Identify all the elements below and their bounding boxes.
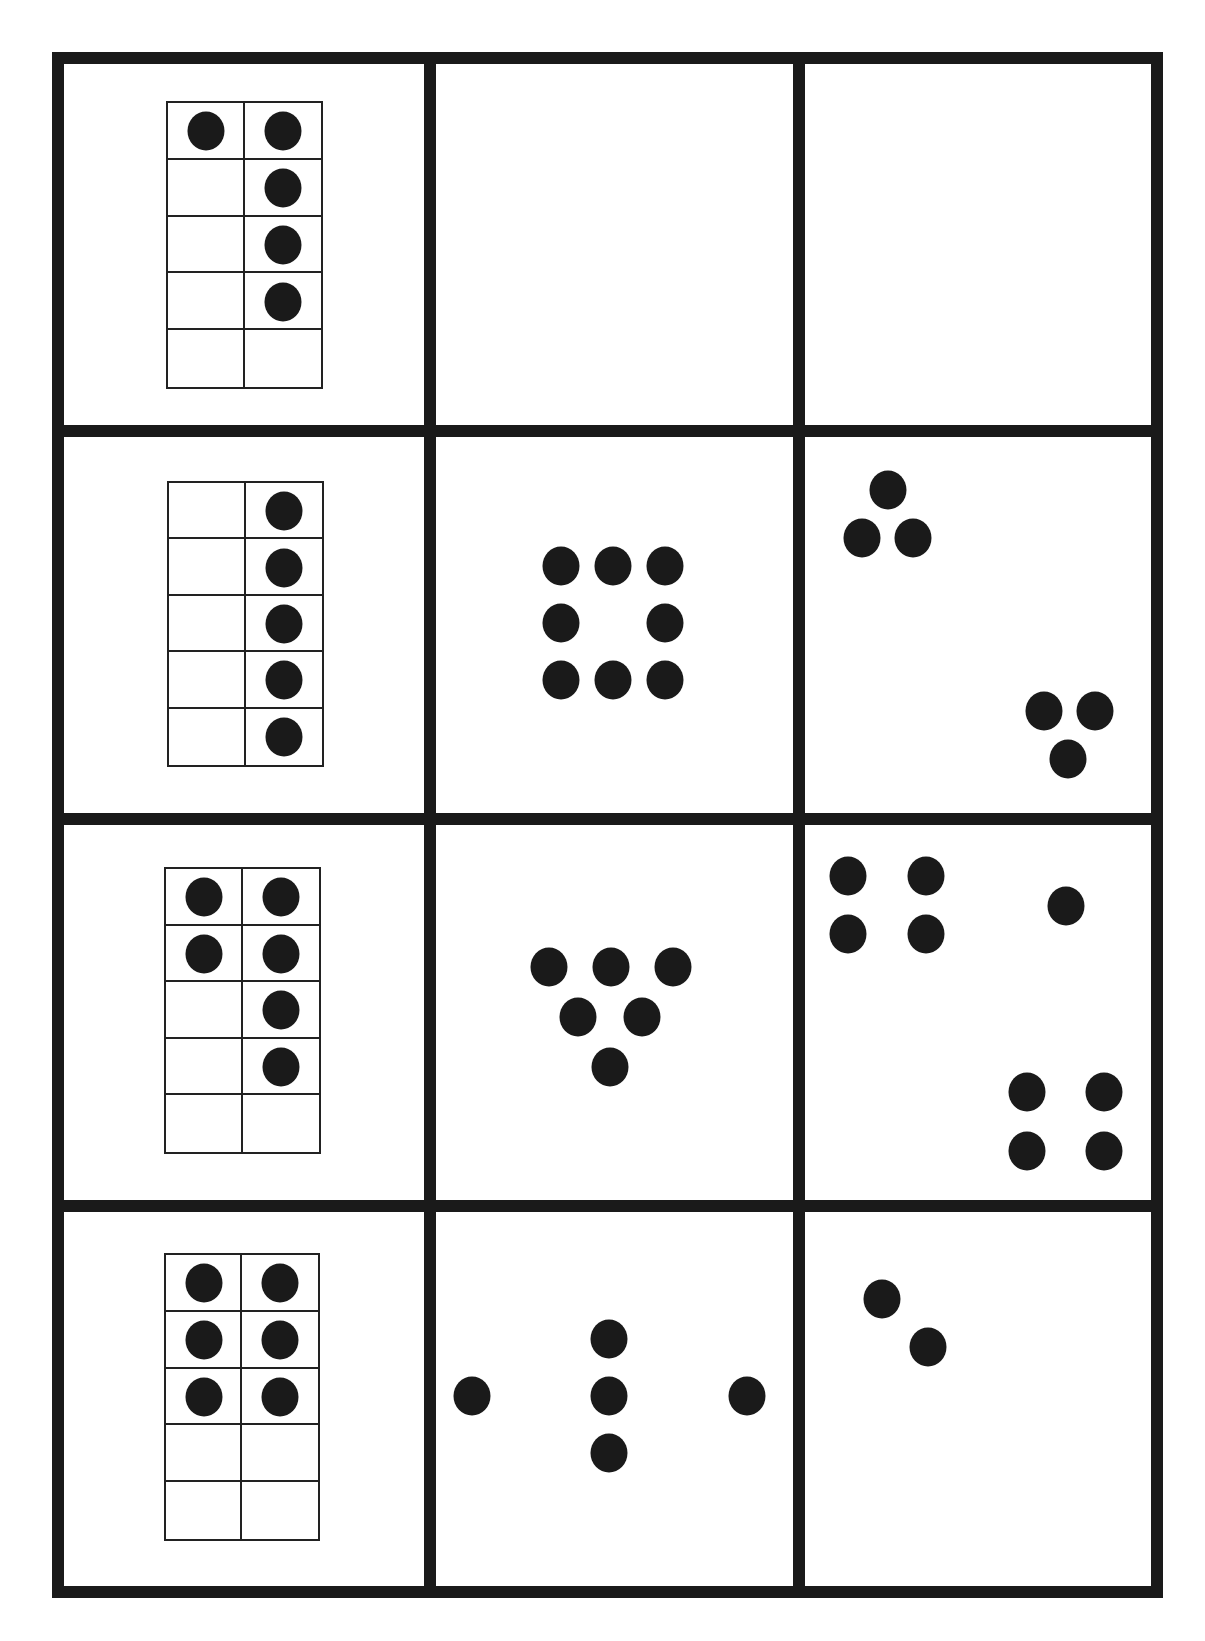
counter-dot — [186, 878, 223, 917]
counter-dot — [265, 548, 302, 587]
dot-card-dot — [1077, 692, 1114, 731]
ten-frame-cell — [168, 273, 245, 330]
counter-dot — [264, 282, 301, 321]
ten-frame-cell — [169, 652, 246, 708]
counter-dot — [262, 878, 299, 917]
ten-frame-cell — [245, 273, 322, 330]
ten-frame-cell — [166, 982, 243, 1039]
row-divider — [52, 813, 1163, 825]
ten-frame-cell — [246, 596, 323, 652]
dot-card-dot — [1086, 1132, 1123, 1171]
ten-frame-cell — [242, 1312, 318, 1369]
ten-frame-cell — [243, 1039, 320, 1096]
dot-card-dot — [591, 1377, 628, 1416]
ten-frame-cell — [169, 709, 246, 765]
ten-frame-cell — [166, 1039, 243, 1096]
dot-card-dot — [543, 547, 580, 586]
dot-card-dot — [908, 857, 945, 896]
row-divider — [52, 1200, 1163, 1212]
counter-dot — [262, 991, 299, 1030]
dot-card-dot — [864, 1280, 901, 1319]
dot-card-dot — [647, 661, 684, 700]
column-divider — [424, 52, 436, 1598]
ten-frame — [167, 481, 324, 767]
dot-card-dot — [910, 1328, 947, 1367]
dot-card-dot — [647, 547, 684, 586]
dot-card-dot — [655, 948, 692, 987]
counter-dot — [262, 1264, 299, 1303]
ten-frame-cell — [243, 926, 320, 983]
counter-dot — [264, 112, 301, 151]
dot-card-dot — [531, 948, 568, 987]
ten-frame-cell — [169, 596, 246, 652]
ten-frame-cell — [245, 217, 322, 274]
column-divider — [793, 52, 805, 1598]
ten-frame-cell — [243, 1095, 320, 1152]
ten-frame-cell — [166, 1255, 242, 1312]
ten-frame-cell — [242, 1425, 318, 1482]
ten-frame-cell — [246, 483, 323, 539]
ten-frame-cell — [245, 330, 322, 387]
counter-dot — [265, 492, 302, 531]
dot-card-dot — [895, 519, 932, 558]
ten-frame-cell — [166, 1482, 242, 1539]
dot-card-dot — [595, 661, 632, 700]
dot-card-dot — [1048, 887, 1085, 926]
row-divider — [52, 425, 1163, 437]
ten-frame-cell — [168, 217, 245, 274]
dot-card-dot — [454, 1377, 491, 1416]
counter-dot — [265, 661, 302, 700]
dot-card-dot — [1026, 692, 1063, 731]
dot-card-dot — [844, 519, 881, 558]
ten-frame-cell — [246, 652, 323, 708]
ten-frame-cell — [169, 483, 246, 539]
grid-border-right — [1151, 52, 1163, 1598]
ten-frame-cell — [169, 539, 246, 595]
grid-border-left — [52, 52, 64, 1598]
ten-frame — [164, 867, 321, 1154]
ten-frame-cell — [166, 1369, 242, 1426]
counter-dot — [262, 1377, 299, 1416]
grid-border-bottom — [52, 1586, 1163, 1598]
counter-dot — [262, 1321, 299, 1360]
counter-dot — [262, 934, 299, 973]
dot-card-dot — [593, 948, 630, 987]
counter-dot — [186, 1377, 223, 1416]
ten-frame-cell — [246, 709, 323, 765]
ten-frame-cell — [246, 539, 323, 595]
ten-frame-cell — [245, 160, 322, 217]
ten-frame-cell — [166, 926, 243, 983]
dot-card-dot — [830, 857, 867, 896]
dot-card-dot — [870, 471, 907, 510]
dot-card-dot — [830, 915, 867, 954]
ten-frame-cell — [166, 1095, 243, 1152]
dot-card-dot — [560, 998, 597, 1037]
worksheet-grid — [0, 0, 1205, 1641]
ten-frame-cell — [245, 103, 322, 160]
dot-card-dot — [591, 1320, 628, 1359]
dot-card-dot — [591, 1434, 628, 1473]
ten-frame-cell — [166, 1312, 242, 1369]
dot-card-dot — [908, 915, 945, 954]
grid-border-top — [52, 52, 1163, 64]
dot-card-dot — [592, 1048, 629, 1087]
ten-frame-cell — [243, 869, 320, 926]
ten-frame-cell — [242, 1482, 318, 1539]
dot-card-dot — [543, 604, 580, 643]
ten-frame-cell — [166, 869, 243, 926]
ten-frame-cell — [243, 982, 320, 1039]
counter-dot — [264, 169, 301, 208]
counter-dot — [265, 717, 302, 756]
dot-card-dot — [729, 1377, 766, 1416]
counter-dot — [186, 1264, 223, 1303]
counter-dot — [188, 112, 225, 151]
ten-frame — [166, 101, 323, 389]
dot-card-dot — [624, 998, 661, 1037]
dot-card-dot — [1009, 1132, 1046, 1171]
ten-frame-cell — [168, 330, 245, 387]
ten-frame-cell — [168, 160, 245, 217]
ten-frame-cell — [242, 1255, 318, 1312]
dot-card-dot — [647, 604, 684, 643]
counter-dot — [262, 1048, 299, 1087]
counter-dot — [186, 1321, 223, 1360]
